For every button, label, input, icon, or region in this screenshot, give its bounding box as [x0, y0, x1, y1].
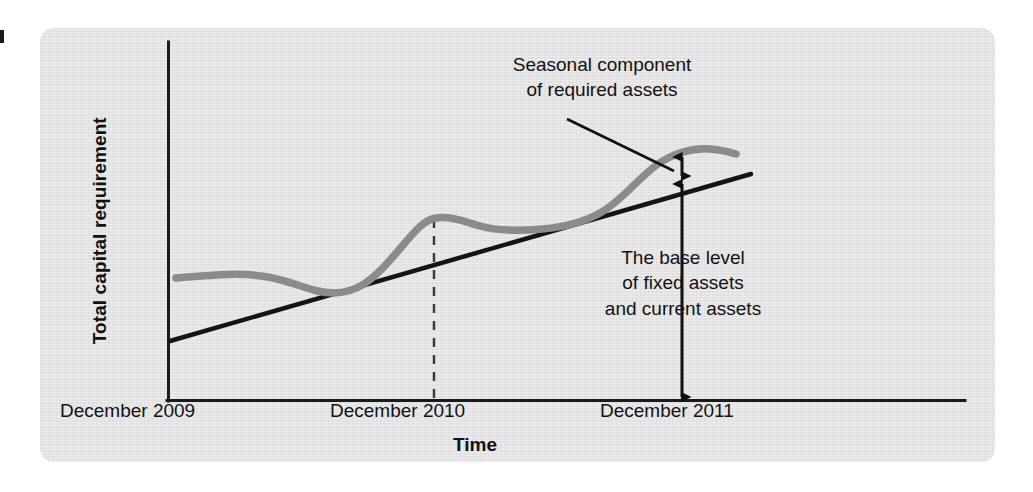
x-tick-label-december-2009: December 2009	[60, 398, 280, 423]
base-level-annotation: The base level of fixed assets and curre…	[562, 245, 804, 321]
chart-figure: Total capital requirement Time December …	[0, 0, 1033, 492]
y-axis-title: Total capital requirement	[87, 101, 112, 361]
x-tick-label-december-2010: December 2010	[330, 398, 550, 423]
seasonal-component-annotation: Seasonal component of required assets	[452, 52, 752, 103]
x-axis-title: Time	[415, 432, 535, 457]
x-tick-label-december-2011: December 2011	[600, 398, 820, 423]
seasonal-annotation-leader-line	[567, 119, 674, 171]
